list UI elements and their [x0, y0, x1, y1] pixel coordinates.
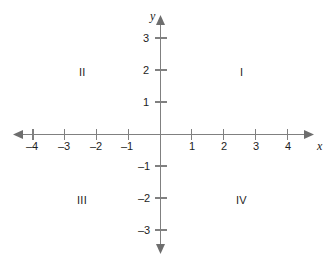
quadrant-label-3: III — [77, 195, 87, 206]
y-tick-label--3: –3 — [138, 225, 150, 236]
y-tick-label-2: 2 — [143, 65, 149, 76]
y-axis-arrow-up — [156, 15, 165, 25]
x-tick-label--3: –3 — [58, 141, 70, 152]
y-axis-label: y — [150, 11, 155, 22]
x-tick-label-4: 4 — [285, 141, 291, 152]
axes-svg — [0, 0, 328, 268]
x-tick-label-1: 1 — [189, 141, 195, 152]
coordinate-plane-figure: –4 –3 –2 –1 1 2 3 4 3 2 1 –1 –2 –3 y x I… — [0, 0, 328, 268]
x-axis-arrow-right — [304, 130, 314, 139]
x-axis-arrow-left — [13, 130, 23, 139]
x-tick-label--2: –2 — [90, 141, 102, 152]
x-tick-label--1: –1 — [121, 141, 133, 152]
quadrant-label-4: IV — [236, 195, 247, 206]
x-tick-label-3: 3 — [253, 141, 259, 152]
y-tick-label--1: –1 — [138, 161, 150, 172]
y-tick-label-3: 3 — [143, 33, 149, 44]
x-axis-label: x — [317, 141, 322, 152]
x-tick-label-2: 2 — [221, 141, 227, 152]
y-tick-label-1: 1 — [143, 97, 149, 108]
quadrant-label-2: II — [79, 67, 86, 78]
x-tick-label--4: –4 — [26, 141, 38, 152]
y-tick-label--2: –2 — [138, 193, 150, 204]
y-axis-arrow-down — [156, 244, 165, 254]
quadrant-label-1: I — [240, 67, 243, 78]
